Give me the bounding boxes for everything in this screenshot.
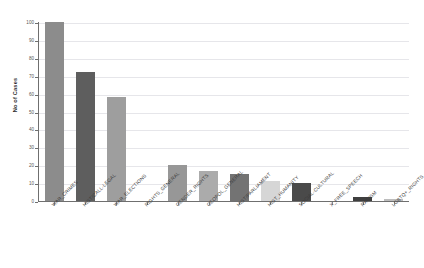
y-tick-label: 40 [29,128,34,133]
y-tick-mark [35,130,38,131]
y-tick-label: 10 [29,182,34,187]
bar[interactable] [45,22,64,201]
y-tick-mark [35,23,38,24]
y-tick-mark [35,166,38,167]
bars-group [39,22,409,201]
bar-slot [137,22,156,201]
y-tick-label: 20 [29,164,34,169]
y-tick-label: 30 [29,146,34,151]
y-tick-mark [35,202,38,203]
y-tick-label: 100 [26,21,34,26]
y-tick-label: 70 [29,74,34,79]
bar-slot [76,22,95,201]
y-tick-mark [35,41,38,42]
y-tick-label: 80 [29,57,34,62]
y-tick-mark [35,184,38,185]
y-tick-mark [35,59,38,60]
plot-area: 0102030405060708090100 [38,22,409,202]
y-axis-title: No of Cases [12,50,18,140]
y-tick-mark [35,77,38,78]
y-tick-label: 90 [29,39,34,44]
x-axis-line [38,201,409,202]
y-tick-mark [35,113,38,114]
bar-slot [45,22,64,201]
bar-slot [199,22,218,201]
bar[interactable] [107,97,126,201]
bar-slot [353,22,372,201]
y-tick-label: 60 [29,92,34,97]
y-tick-label: 50 [29,110,34,115]
y-tick-mark [35,95,38,96]
bar[interactable] [76,72,95,201]
y-tick-label: 0 [31,200,34,205]
bar-slot [107,22,126,201]
y-tick-mark [35,148,38,149]
bar-slot [384,22,403,201]
bar-slot [292,22,311,201]
x-axis-labels: WAR_CRIMESHIST/CALL-LEGALWAR_ELECTIONSRI… [38,204,409,266]
